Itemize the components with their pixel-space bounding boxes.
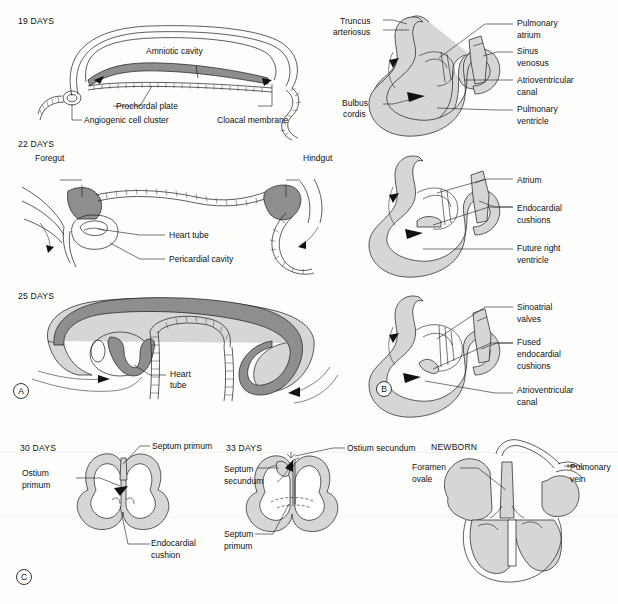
label-ostium-secundum: Ostium secundum (347, 443, 416, 454)
label-fused-cushions-line2: endocardial (517, 349, 561, 360)
label-foregut: Foregut (35, 153, 64, 164)
label-sinoatrial-valves-line1: Sinoatrial (517, 302, 552, 313)
label-septum-primum-33-line1: Septum (224, 529, 253, 540)
label-atrium: Atrium (517, 175, 542, 186)
label-heart-tube-25-line2: tube (170, 380, 187, 391)
label-atrioventricular-canal-line1: Atrioventricular (517, 75, 574, 86)
label-foramen-ovale-line2: ovale (412, 474, 432, 485)
label-cloacal-membrane: Cloacal membrane (217, 115, 288, 126)
label-pericardial-cavity: Pericardial cavity (169, 254, 233, 265)
label-pulmonary-ventricle-line2: ventricle (517, 116, 549, 127)
diagram-newborn (418, 420, 618, 590)
diagram-19-days (0, 0, 345, 140)
label-pulmonary-atrium-line1: Pulmonary (517, 18, 558, 29)
diagram-b-heart-stage3 (345, 285, 618, 425)
label-bulbus-cordis-line2: cordis (343, 109, 366, 120)
label-pulmonary-vein-line2: vein (570, 474, 586, 485)
label-bulbus-cordis-line1: Bulbus (342, 98, 368, 109)
label-septum-primum-33-line2: primum (224, 541, 252, 552)
diagram-b-heart-stage1 (345, 0, 618, 140)
panel-a: 19 DAYS (0, 0, 345, 420)
label-septum-secundum-line2: secundum (224, 476, 263, 487)
label-sinus-venosus-line1: Sinus (517, 46, 538, 57)
label-truncus-arteriosus-line1: Truncus (340, 16, 370, 27)
label-atrioventricular-canal-line2: canal (517, 87, 537, 98)
label-fused-cushions-line3: cushions (517, 361, 551, 372)
panel-mark-c: C (16, 569, 32, 585)
label-amniotic-cavity: Amniotic cavity (146, 46, 203, 57)
panel-mark-b: B (376, 381, 392, 397)
label-future-right-ventricle-line1: Future right (517, 243, 560, 254)
label-av-canal-b3-line1: Atrioventricular (517, 385, 574, 396)
label-septum-secundum-line1: Septum (224, 464, 253, 475)
label-ostium-primum-line1: Ostium (22, 468, 49, 479)
label-pulmonary-ventricle-line1: Pulmonary (517, 104, 558, 115)
label-endocardial-cushion-line2: cushion (151, 550, 180, 561)
label-truncus-arteriosus-line2: arteriosus (333, 27, 370, 38)
panel-b: Truncus arteriosus Bulbus cordis Pulmona… (345, 0, 618, 420)
label-pulmonary-atrium-line2: atrium (517, 30, 541, 41)
label-endocardial-cushions-line1: Endocardial (517, 203, 562, 214)
label-heart-tube-22: Heart tube (169, 230, 209, 241)
label-sinoatrial-valves-line2: valves (517, 314, 541, 325)
label-angiogenic-cell-cluster: Angiogenic cell cluster (84, 115, 169, 126)
label-septum-primum-30: Septum primum (152, 441, 212, 452)
label-foramen-ovale-line1: Foramen (412, 462, 446, 473)
label-future-right-ventricle-line2: ventricle (517, 255, 549, 266)
label-prochordal-plate: Prochordal plate (116, 101, 178, 112)
label-hindgut: Hindgut (303, 153, 332, 164)
label-endocardial-cushion-line1: Endocardial (151, 538, 196, 549)
label-fused-cushions-line1: Fused (517, 337, 541, 348)
panel-mark-a: A (13, 383, 29, 399)
diagram-b-heart-stage2 (345, 145, 618, 285)
label-ostium-primum-line2: primum (22, 480, 50, 491)
label-sinus-venosus-line2: venosus (517, 58, 549, 69)
label-heart-tube-25-line1: Heart (170, 369, 191, 380)
panel-c: 30 DAYS Septum primum Ostium primum Endo… (0, 420, 618, 604)
label-pulmonary-vein-line1: Pulmonary (570, 462, 611, 473)
label-av-canal-b3-line2: canal (517, 397, 537, 408)
label-endocardial-cushions-line2: cushions (517, 215, 551, 226)
